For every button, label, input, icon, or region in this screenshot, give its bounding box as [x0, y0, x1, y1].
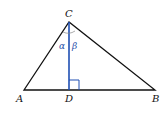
triangle-abc [24, 22, 155, 90]
label-b: B [151, 93, 159, 104]
label-a: A [15, 93, 23, 104]
angle-beta: β [71, 41, 77, 51]
triangle-diagram: C A D B α β [0, 0, 162, 117]
right-angle-marker [69, 80, 79, 90]
angle-alpha: α [59, 41, 65, 51]
label-c: C [65, 8, 73, 19]
label-d: D [64, 93, 73, 104]
